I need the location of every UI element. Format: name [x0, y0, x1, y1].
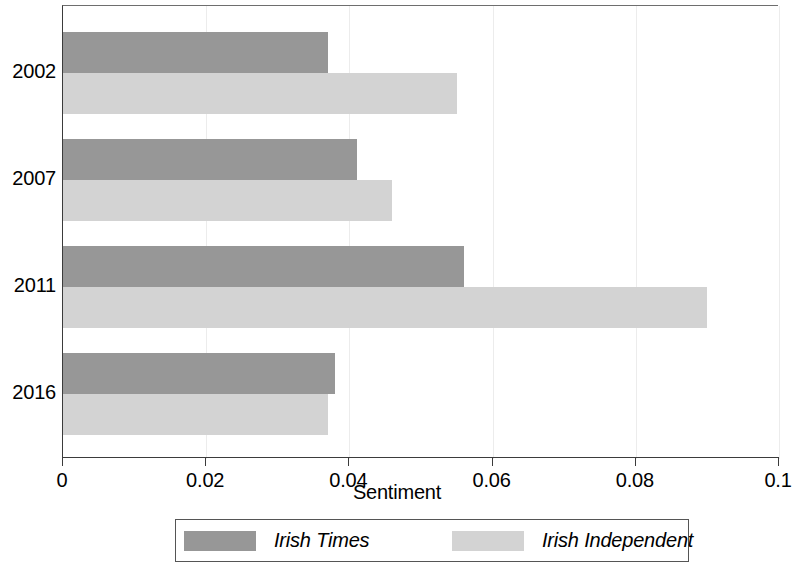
- x-axis-title: Sentiment: [0, 481, 794, 504]
- x-tick-mark: [348, 457, 349, 466]
- legend-entry-irish-times[interactable]: Irish Times: [184, 529, 369, 552]
- legend-swatch-icon: [452, 531, 524, 551]
- legend-swatch-icon: [184, 531, 256, 551]
- sentiment-bar-chart: 2002200720112016 00.020.040.060.080.1 Se…: [0, 0, 794, 562]
- legend-label: Irish Times: [274, 529, 369, 552]
- legend-entry-irish-independent[interactable]: Irish Independent: [452, 529, 693, 552]
- bar-2011-irish-independent: [63, 287, 707, 328]
- x-tick-mark: [492, 457, 493, 466]
- y-tick-label-2016: 2016: [0, 381, 56, 404]
- legend: Irish TimesIrish Independent: [175, 519, 689, 562]
- legend-label: Irish Independent: [542, 529, 693, 552]
- y-tick-label-2011: 2011: [0, 274, 56, 297]
- bar-2016-irish-independent: [63, 394, 328, 435]
- bar-2011-irish-times: [63, 246, 464, 287]
- plot-area: [62, 5, 778, 458]
- gridline: [493, 6, 494, 459]
- y-tick-label-2002: 2002: [0, 60, 56, 83]
- x-tick-mark: [635, 457, 636, 466]
- gridline: [636, 6, 637, 459]
- bar-2007-irish-times: [63, 139, 357, 180]
- x-tick-mark: [205, 457, 206, 466]
- x-tick-mark: [778, 457, 779, 466]
- gridline: [779, 6, 780, 459]
- bar-2002-irish-times: [63, 32, 328, 73]
- y-tick-label-2007: 2007: [0, 167, 56, 190]
- x-tick-mark: [62, 457, 63, 466]
- bar-2002-irish-independent: [63, 73, 457, 114]
- x-axis-line: [62, 457, 779, 458]
- bar-2016-irish-times: [63, 353, 335, 394]
- bar-2007-irish-independent: [63, 180, 392, 221]
